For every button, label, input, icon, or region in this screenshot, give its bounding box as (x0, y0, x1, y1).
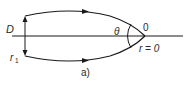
upper-streamline-curve (25, 11, 145, 36)
diagram-canvas: D r 1 θ 0 r = 0 a) (0, 0, 193, 85)
diameter-arrow-up-icon (23, 16, 28, 22)
theta-label: θ (114, 26, 120, 37)
lower-flow-arrow-icon (82, 58, 89, 63)
upper-flow-arrow-icon (82, 9, 89, 14)
r1-subscript: 1 (15, 57, 19, 64)
r1-label: r (10, 52, 14, 63)
lower-streamline-curve (25, 36, 145, 61)
diameter-label: D (6, 23, 14, 35)
origin-label: 0 (143, 22, 149, 33)
r-zero-label: r = 0 (139, 43, 160, 54)
diameter-arrow-down-icon (23, 50, 28, 56)
figure-caption: a) (81, 67, 90, 78)
